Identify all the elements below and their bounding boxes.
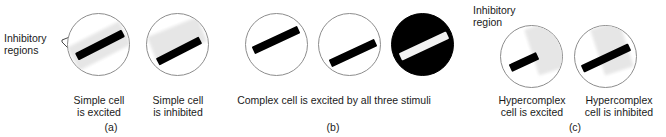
stimulus-simple-cell-inhibited: [146, 13, 209, 76]
stimulus-hypercomplex-inhibited: [574, 25, 637, 88]
caption-simple-cell-excited: Simple cell is excited: [62, 94, 136, 118]
stimulus-bar: [252, 26, 301, 54]
inhibitory-regions-label: Inhibitory regions: [4, 33, 62, 56]
panel-b: Complex cell is excited by all three sti…: [222, 0, 444, 137]
caption-hypercomplex-excited: Hypercomplex cell is excited: [488, 94, 576, 118]
stimulus-complex-upper-left: [245, 13, 308, 76]
caption-hypercomplex-inhibited: Hypercomplex cell is inhibited: [575, 94, 663, 118]
stimulus-bar: [399, 31, 450, 60]
panel-c: Inhibitory region Hypercomplex cell is e…: [444, 0, 666, 137]
panel-letter-a: (a): [91, 121, 131, 133]
stimulus-simple-cell-excited: [67, 13, 130, 76]
receptive-field-figure: Inhibitory regions Simple cell is excite…: [0, 0, 666, 137]
panel-a: Inhibitory regions Simple cell is excite…: [0, 0, 222, 137]
stimulus-bar: [329, 39, 378, 67]
panel-letter-c: (c): [555, 121, 595, 133]
panel-letter-b: (b): [313, 121, 353, 133]
stimulus-hypercomplex-excited: [500, 25, 563, 88]
stimulus-complex-lower-right: [318, 13, 381, 76]
caption-simple-cell-inhibited: Simple cell is inhibited: [141, 94, 215, 118]
caption-complex-cell: Complex cell is excited by all three sti…: [228, 94, 440, 106]
inhibitory-region-shape: [524, 25, 563, 75]
